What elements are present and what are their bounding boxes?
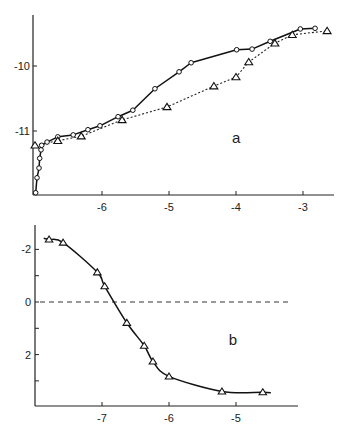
circle-marker bbox=[177, 70, 182, 75]
x-tick-label: -5 bbox=[164, 201, 174, 213]
panel-a-label: a bbox=[232, 129, 241, 146]
y-tick-label: -11 bbox=[15, 125, 30, 137]
x-tick-label: -3 bbox=[298, 201, 308, 213]
y-tick-label: 2 bbox=[25, 349, 31, 361]
circle-marker bbox=[268, 39, 273, 44]
y-tick-label: -10 bbox=[14, 60, 30, 72]
circle-marker bbox=[116, 114, 121, 119]
panel-a-markers bbox=[31, 26, 331, 195]
panel-a: -6-5-4-3-10-11 a bbox=[14, 15, 334, 213]
panel-b-fitted-curve bbox=[44, 238, 271, 392]
circle-marker bbox=[313, 26, 318, 31]
panel-b-ticks: -7-6-5-202 bbox=[21, 243, 241, 424]
circle-marker bbox=[45, 140, 50, 145]
circle-marker bbox=[131, 108, 136, 113]
x-tick-label: -6 bbox=[97, 201, 107, 213]
x-tick-label: -7 bbox=[97, 412, 107, 424]
circle-marker bbox=[98, 124, 103, 129]
circle-marker bbox=[153, 86, 158, 91]
circle-marker bbox=[37, 166, 42, 171]
circle-marker bbox=[39, 143, 44, 148]
circle-marker bbox=[71, 133, 76, 138]
y-tick-label: 0 bbox=[25, 296, 31, 308]
panel-b-markers bbox=[45, 236, 266, 395]
triangle-marker bbox=[123, 319, 130, 325]
x-tick-label: -4 bbox=[231, 201, 241, 213]
triangle-marker bbox=[288, 31, 296, 37]
circle-marker bbox=[298, 27, 303, 32]
circle-marker bbox=[35, 176, 40, 181]
x-tick-label: -5 bbox=[231, 412, 241, 424]
circle-marker bbox=[250, 47, 255, 52]
triangle-marker bbox=[323, 27, 331, 33]
circle-marker bbox=[86, 127, 91, 132]
figure: -6-5-4-3-10-11 a -7-6-5-202 b bbox=[0, 0, 341, 430]
panel-b-label: b bbox=[229, 331, 237, 348]
triangle-marker bbox=[101, 283, 108, 289]
circle-marker bbox=[37, 156, 42, 161]
y-tick-label: -2 bbox=[21, 243, 31, 255]
panel-b: -7-6-5-202 b bbox=[21, 225, 298, 424]
triangle-marker bbox=[59, 239, 66, 245]
triangle-marker bbox=[210, 83, 218, 89]
circle-marker bbox=[33, 190, 38, 195]
triangle-marker bbox=[163, 103, 171, 109]
circle-marker bbox=[234, 47, 239, 52]
panel-a-circle-series-line bbox=[36, 28, 315, 192]
triangle-marker bbox=[149, 358, 156, 364]
panel-a-triangle-series-line bbox=[35, 31, 327, 145]
circle-marker bbox=[189, 60, 194, 65]
triangle-marker bbox=[31, 142, 39, 148]
x-tick-label: -6 bbox=[164, 412, 174, 424]
